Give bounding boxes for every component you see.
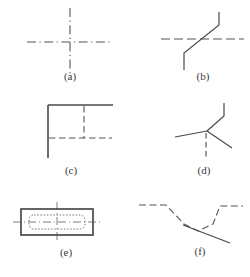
panel-e-caption: (e) xyxy=(46,246,86,258)
panel-f-dashed-valley-line xyxy=(139,205,243,231)
panel-c-group xyxy=(48,105,113,158)
panel-d-diagonal-left-line xyxy=(175,131,207,137)
panel-d-group xyxy=(175,103,232,159)
panel-d-caption: (d) xyxy=(184,164,224,176)
panel-f-caption: (f) xyxy=(180,245,220,257)
panel-b-group xyxy=(161,12,244,70)
panel-b-jogged-solid-line xyxy=(184,12,219,70)
panel-e-group xyxy=(13,202,101,243)
panel-a-group xyxy=(27,8,113,74)
panel-c-caption: (c) xyxy=(51,164,91,176)
panel-d-diagonal-right-line xyxy=(207,131,232,148)
figure-container: (a) (b) (c) (d) (e) (f) xyxy=(0,0,250,277)
panel-f-group xyxy=(139,205,243,243)
panel-b-caption: (b) xyxy=(183,70,223,82)
panel-f-solid-diagonal-line xyxy=(183,225,230,243)
panel-a-caption: (a) xyxy=(50,70,90,82)
panel-d-bent-solid-line xyxy=(207,103,224,131)
line-drawing-svg xyxy=(0,0,250,277)
